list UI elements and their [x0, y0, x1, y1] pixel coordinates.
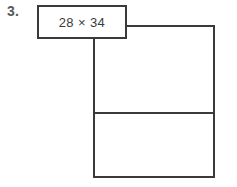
- area-model-cell-top[interactable]: [95, 27, 213, 112]
- worksheet-problem: 3. 28 × 34: [0, 0, 237, 187]
- area-model-cell-bottom[interactable]: [95, 112, 213, 180]
- expression-label-box: 28 × 34: [37, 5, 127, 39]
- area-model-rectangle: [93, 25, 215, 178]
- expression-text: 28 × 34: [59, 15, 106, 30]
- problem-number: 3.: [7, 3, 19, 19]
